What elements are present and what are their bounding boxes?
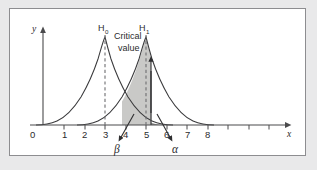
x-tick-label-2: 2: [82, 129, 87, 140]
x-tick-label-6: 6: [164, 129, 169, 140]
alpha-label: α: [172, 143, 179, 155]
h0-label: H 0: [98, 23, 109, 35]
y-axis-label: y: [31, 24, 37, 34]
x-axis-label: x: [286, 129, 292, 139]
x-tick-label-5: 5: [144, 129, 149, 140]
svg-text:0: 0: [105, 28, 109, 35]
x-tick-label-8: 8: [205, 129, 210, 140]
figure-root: y x 0 1 2 3 4 5 6 7 8 H 0 H 1 Critical v…: [0, 0, 317, 170]
svg-text:1: 1: [146, 28, 150, 35]
beta-label: β: [113, 143, 120, 156]
statistical-diagram: y x 0 1 2 3 4 5 6 7 8 H 0 H 1 Critical v…: [10, 9, 307, 157]
x-tick-label-3: 3: [103, 129, 108, 140]
x-tick-label-4: 4: [123, 129, 128, 140]
svg-text:Critical: Critical: [114, 31, 142, 41]
plot-frame: y x 0 1 2 3 4 5 6 7 8 H 0 H 1 Critical v…: [9, 8, 306, 156]
svg-text:H: H: [98, 23, 105, 33]
critical-value-label: Critical value: [114, 31, 142, 53]
origin-label: 0: [30, 129, 35, 140]
x-tick-label-1: 1: [62, 129, 67, 140]
x-tick-label-7: 7: [185, 129, 190, 140]
svg-text:value: value: [118, 43, 140, 53]
